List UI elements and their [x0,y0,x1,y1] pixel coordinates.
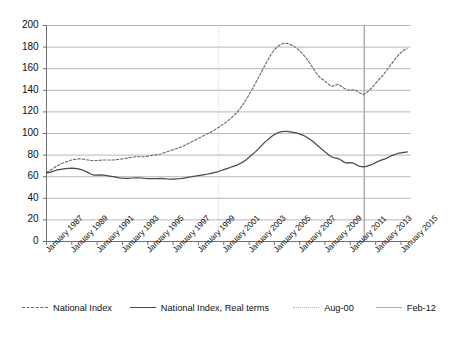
y-tick-label-140: 140 [9,85,39,95]
y-tick-label-60: 60 [9,171,39,181]
y-axis-ticks [43,26,47,242]
legend-item-national-index-real-terms[interactable]: National Index, Real terms [130,303,269,313]
legend-label: Aug-00 [324,303,354,313]
gridlines [47,26,411,220]
y-tick-label-0: 0 [9,236,39,246]
legend-item-aug-00[interactable]: Aug-00 [293,303,354,313]
y-tick-label-80: 80 [9,150,39,160]
legend-item-national-index[interactable]: National Index [22,303,112,313]
chart-legend: National IndexNational Index, Real terms… [0,298,458,318]
y-tick-label-20: 20 [9,214,39,224]
y-tick-label-120: 120 [9,106,39,116]
legend-swatch-line-light-icon [376,304,402,312]
legend-swatch-dotted-icon [293,304,319,312]
legend-label: National Index [53,303,112,313]
y-tick-label-180: 180 [9,42,39,52]
legend-swatch-solid-icon [130,304,156,312]
chart-container: 200180160140120100806040200 January 1987… [0,0,458,338]
y-tick-label-160: 160 [9,63,39,73]
y-tick-label-200: 200 [9,20,39,30]
legend-item-feb-12[interactable]: Feb-12 [376,303,436,313]
legend-swatch-dashed-icon [22,304,48,312]
series-line-national-index [47,43,408,172]
legend-label: National Index, Real terms [161,303,269,313]
legend-label: Feb-12 [407,303,436,313]
series-lines [47,43,408,179]
y-tick-label-40: 40 [9,193,39,203]
chart-plot-area [0,0,458,338]
y-tick-label-100: 100 [9,128,39,138]
